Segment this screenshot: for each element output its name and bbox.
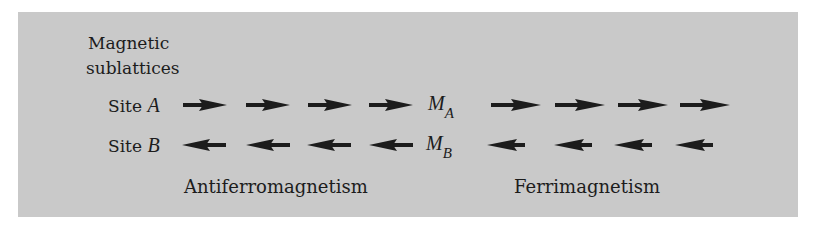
arrow-right-icon <box>680 99 730 111</box>
arrow-right-icon <box>246 99 290 111</box>
arrow-left-icon <box>487 139 525 151</box>
ferri-site-a-arrows <box>491 99 730 111</box>
arrow-left-icon <box>614 139 652 151</box>
arrow-left-icon <box>246 139 290 151</box>
arrow-left-icon <box>369 139 413 151</box>
antiferro-site-a-arrows <box>183 99 413 111</box>
arrow-right-icon <box>308 99 352 111</box>
arrow-right-icon <box>618 99 668 111</box>
arrow-left-icon <box>307 139 351 151</box>
arrow-left-icon <box>675 139 713 151</box>
antiferro-site-b-arrows <box>182 139 413 151</box>
arrow-left-icon <box>182 139 226 151</box>
spin-arrows <box>0 0 822 227</box>
arrow-right-icon <box>491 99 541 111</box>
arrow-right-icon <box>183 99 227 111</box>
arrow-right-icon <box>369 99 413 111</box>
ferri-site-b-arrows <box>487 139 713 151</box>
arrow-right-icon <box>555 99 605 111</box>
arrow-left-icon <box>554 139 592 151</box>
